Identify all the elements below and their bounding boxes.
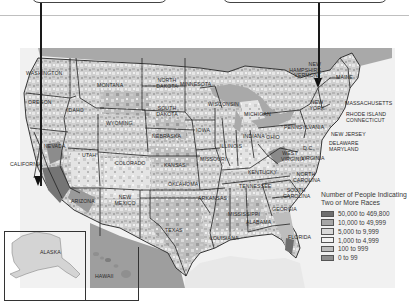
leader-line-right xyxy=(318,3,320,81)
map-legend: Number of People Indicating Two or More … xyxy=(321,191,409,262)
legend-title: Number of People Indicating Two or More … xyxy=(321,191,409,207)
label-georgia: GEORGIA xyxy=(272,207,297,213)
legend-item: 50,000 to 469,800 xyxy=(321,209,409,218)
label-wisconsin: WISCONSIN xyxy=(208,102,239,108)
label-michigan: MICHIGAN xyxy=(244,112,271,118)
label-kansas: KANSAS xyxy=(164,163,186,169)
legend-label: 10,000 to 49,999 xyxy=(338,219,386,226)
label-minnesota: MINNESOTA xyxy=(180,82,211,88)
label-indiana: INDIANA xyxy=(243,134,265,140)
label-south-carolina: SOUTH CAROLINA xyxy=(283,188,309,199)
label-rhode-island-connecticut: RHODE ISLAND CONNECTICUT xyxy=(346,112,392,123)
legend-label: 1,000 to 4,999 xyxy=(338,237,379,244)
divider-rule xyxy=(0,15,409,16)
label-arizona: ARIZONA xyxy=(71,199,95,205)
callout-box-left xyxy=(31,0,168,3)
label-nevada: NEVADA xyxy=(44,144,66,150)
legend-label: 0 to 99 xyxy=(338,254,358,261)
legend-swatch xyxy=(321,246,334,253)
label-arkansas: ARKANSAS xyxy=(198,196,227,202)
legend-item: 5,000 to 9,999 xyxy=(321,227,409,236)
legend-swatch xyxy=(321,219,334,226)
label-kentucky: KENTUCKY xyxy=(248,170,277,176)
label-colorado: COLORADO xyxy=(115,161,146,167)
label-delaware-maryland: DELAWARE MARYLAND xyxy=(329,141,363,152)
label-mississippi: MISSISSIPPI xyxy=(228,212,260,218)
label-north-dakota: NORTH DAKOTA xyxy=(154,78,180,89)
label-new-york: NEW YORK xyxy=(308,100,326,111)
label-montana: MONTANA xyxy=(97,83,123,89)
label-wyoming: WYOMING xyxy=(106,121,133,127)
legend-swatch xyxy=(321,255,334,262)
legend-label: 5,000 to 9,999 xyxy=(338,228,379,235)
legend-item: 10,000 to 49,999 xyxy=(321,218,409,227)
legend-item: 1,000 to 4,999 xyxy=(321,236,409,245)
label-nebraska: NEBRASKA xyxy=(152,134,181,140)
label-california: CALIFORNIA xyxy=(10,162,42,168)
alaska-inset xyxy=(4,231,86,301)
label-tennessee: TENNESSEE xyxy=(239,184,271,190)
leader-line-left xyxy=(40,3,42,186)
label-texas: TEXAS xyxy=(165,228,183,234)
callout-box-right xyxy=(222,0,388,3)
legend-label: 100 to 999 xyxy=(338,245,368,252)
label-pennsylvania: PENNSYLVANIA xyxy=(284,125,324,131)
legend-item: 0 to 99 xyxy=(321,253,409,262)
label-iowa: IOWA xyxy=(196,128,210,134)
label-west-virginia: WEST VIRGINIA xyxy=(281,151,299,162)
label-missouri: MISSOURI xyxy=(200,157,226,163)
label-maine: MAINE xyxy=(336,75,353,81)
legend-item: 100 to 999 xyxy=(321,245,409,254)
label-south-dakota: SOUTH DAKOTA xyxy=(154,106,180,117)
label-new-mexico: NEW MEXICO xyxy=(114,195,136,206)
label-oklahoma: OKLAHOMA xyxy=(168,182,198,188)
label-louisiana: LOUISIANA xyxy=(210,236,239,242)
label-massachusetts: MASSACHUSETTS xyxy=(345,101,392,107)
label-hawaii: HAWAII xyxy=(95,274,114,280)
label-north-carolina: NORTH CAROLINA xyxy=(293,172,319,183)
label-idaho: IDAHO xyxy=(67,108,84,114)
label-illinois: ILLINOIS xyxy=(220,144,242,150)
legend-swatch xyxy=(321,228,334,235)
label-florida: FLORIDA xyxy=(288,235,311,241)
label-new-jersey: NEW JERSEY xyxy=(331,132,366,138)
legend-label: 50,000 to 469,800 xyxy=(338,210,390,217)
label-alabama: ALABAMA xyxy=(246,220,271,226)
label-utah: UTAH xyxy=(82,153,96,159)
label-washington: WASHINGTON xyxy=(26,71,62,77)
label-nh-vermont: NEW HAMPSHIRE VERMONT xyxy=(277,62,321,79)
legend-swatch xyxy=(321,237,334,244)
legend-swatch xyxy=(321,211,334,218)
label-ohio: OHIO xyxy=(266,135,280,141)
label-dc: D.C. xyxy=(303,146,314,152)
label-alaska: ALASKA xyxy=(40,250,61,256)
